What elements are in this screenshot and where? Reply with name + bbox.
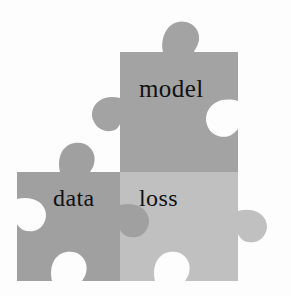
- piece-label-model: model: [139, 76, 204, 101]
- puzzle-piece-data[interactable]: [17, 143, 120, 281]
- piece-label-data: data: [53, 186, 95, 210]
- jigsaw-puzzle-figure: model data loss: [0, 0, 291, 296]
- model-left-knob: [92, 97, 120, 131]
- puzzle-graphic: [0, 0, 291, 296]
- piece-label-loss: loss: [139, 186, 178, 210]
